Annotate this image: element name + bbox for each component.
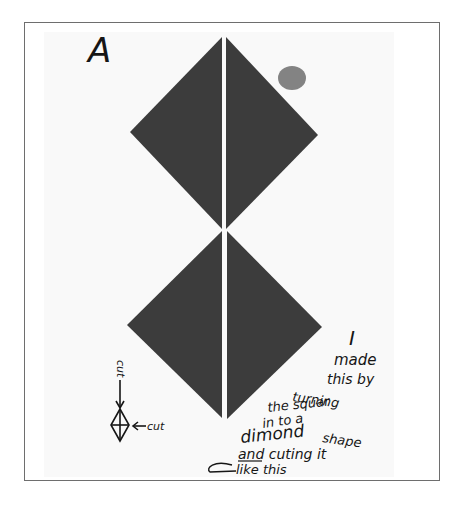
bottom-diamond-left-half — [127, 231, 222, 418]
note-line-7: dimond — [239, 420, 305, 447]
note-line-10: like this — [236, 462, 287, 477]
note-line-1: I — [349, 326, 355, 350]
top-diamond — [130, 37, 318, 229]
top-diamond-left-half — [130, 37, 222, 229]
note-line-9: and cuting it — [238, 446, 327, 462]
cut-label-horizontal: cut — [147, 420, 165, 433]
smudge — [278, 66, 306, 90]
cut-label-vertical: cut — [114, 360, 127, 378]
drawing-canvas: A cut cut I made this by turning the squ… — [0, 0, 463, 507]
note-line-8: shape — [322, 430, 363, 450]
cut-diagram: cut cut — [111, 360, 165, 441]
top-diamond-right-half — [226, 37, 318, 229]
note-line-3: this by — [327, 371, 375, 387]
label-letter: A — [86, 30, 111, 70]
note-line-2: made — [334, 351, 377, 369]
curly-arrow-icon — [209, 463, 236, 472]
